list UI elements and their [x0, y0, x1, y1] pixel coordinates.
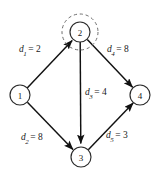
- edge-label-d5: d5= 3: [106, 131, 128, 143]
- edge-d5-subscript: 5: [110, 136, 114, 144]
- node-1-label: 1: [18, 91, 23, 101]
- edge-d3-equals: =: [93, 87, 99, 97]
- edge-d3-subscript: 3: [89, 93, 93, 101]
- graph-canvas: 1 2 3 4: [0, 0, 160, 179]
- edge-d4-weight: 8: [124, 44, 129, 54]
- edge-label-d3: d3= 4: [85, 88, 107, 100]
- edge-d2-subscript: 2: [25, 138, 29, 146]
- node-1[interactable]: 1: [10, 85, 30, 105]
- edge-d1-weight: 2: [36, 44, 41, 54]
- edge-d5-equals: =: [114, 130, 120, 140]
- edge-d1-subscript: 1: [23, 50, 27, 58]
- edge-d2-weight: 8: [38, 132, 43, 142]
- edge-d2-equals: =: [29, 132, 35, 142]
- edge-d1-equals: =: [27, 44, 33, 54]
- node-3-label: 3: [79, 153, 84, 163]
- edge-d3-weight: 4: [102, 87, 107, 97]
- node-4-label: 4: [138, 91, 143, 101]
- edge-d4-equals: =: [115, 44, 121, 54]
- edge-d3-arc: [80, 42, 81, 144]
- edge-d4-subscript: 4: [111, 50, 115, 58]
- node-2-label: 2: [78, 28, 83, 38]
- edge-d5-weight: 3: [123, 130, 128, 140]
- edge-label-d4: d4= 8: [107, 45, 129, 57]
- node-2[interactable]: 2: [70, 22, 90, 42]
- node-4[interactable]: 4: [130, 85, 150, 105]
- node-3[interactable]: 3: [71, 147, 91, 167]
- network-diagram-figure: 1 2 3 4 d1= 2 d4= 8 d3= 4 d2= 8 d5: [0, 0, 160, 179]
- edge-label-d2: d2= 8: [21, 133, 43, 145]
- edge-label-d1: d1= 2: [19, 45, 41, 57]
